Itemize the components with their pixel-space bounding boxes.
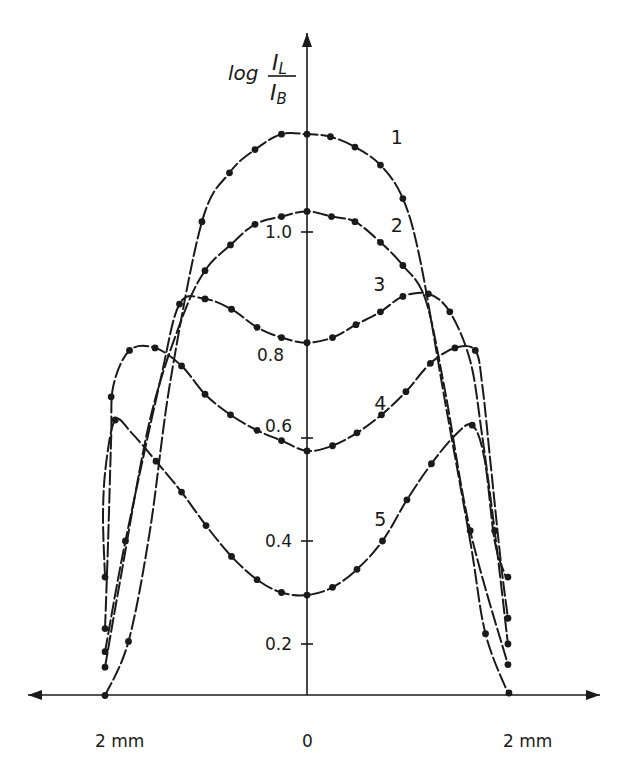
series-label: 3 xyxy=(373,273,385,295)
data-point xyxy=(304,447,311,454)
data-point xyxy=(278,131,285,138)
data-point xyxy=(102,625,109,632)
x-tick-label: 2 mm xyxy=(503,731,552,751)
data-point xyxy=(252,146,259,153)
data-point xyxy=(472,347,479,354)
data-point xyxy=(379,538,386,545)
data-point xyxy=(469,422,476,429)
x-tick-label: 2 mm xyxy=(95,731,144,751)
data-point xyxy=(425,290,432,297)
data-point xyxy=(252,221,259,228)
data-point xyxy=(178,363,185,370)
x-tick-label: 0 xyxy=(302,731,313,751)
data-point xyxy=(254,576,261,583)
y-axis-label: log IL IB xyxy=(228,50,296,108)
data-point xyxy=(403,388,410,395)
data-point xyxy=(377,308,384,315)
data-point xyxy=(152,344,159,351)
data-point xyxy=(228,553,235,560)
data-point xyxy=(102,574,109,581)
data-point xyxy=(254,427,261,434)
data-point xyxy=(102,664,109,671)
data-point xyxy=(202,391,209,398)
data-point xyxy=(399,293,406,300)
y-ticks: 0.20.40.60.81.0 xyxy=(257,222,313,654)
x-axis-right-arrow-icon xyxy=(586,690,600,700)
data-point xyxy=(327,133,334,140)
y-label-prefix: log xyxy=(228,61,259,85)
series-label: 4 xyxy=(374,392,386,414)
data-point xyxy=(254,324,261,331)
data-point xyxy=(377,239,384,246)
data-point xyxy=(304,208,311,215)
data-point xyxy=(428,460,435,467)
data-point xyxy=(354,429,361,436)
y-tick-label: 0.2 xyxy=(265,634,292,654)
data-point xyxy=(126,347,133,354)
data-point xyxy=(505,661,512,668)
data-point xyxy=(399,195,406,202)
data-point xyxy=(278,213,285,220)
data-point xyxy=(226,169,233,176)
data-point xyxy=(467,527,474,534)
x-axis xyxy=(28,690,600,700)
data-point xyxy=(505,641,512,648)
y-tick-label: 0.4 xyxy=(265,531,292,551)
data-point xyxy=(278,589,285,596)
data-point xyxy=(112,417,119,424)
data-point xyxy=(203,522,210,529)
data-point xyxy=(329,442,336,449)
data-point xyxy=(505,615,512,622)
data-point xyxy=(202,296,209,303)
data-point xyxy=(352,218,359,225)
data-point xyxy=(153,458,160,465)
y-label-denominator: IB xyxy=(270,80,287,108)
data-point xyxy=(427,360,434,367)
data-point xyxy=(199,218,206,225)
y-tick-label: 1.0 xyxy=(265,222,292,242)
x-tick-labels: 2 mm02 mm xyxy=(95,731,552,751)
data-point xyxy=(377,162,384,169)
data-point xyxy=(452,344,459,351)
series-label: 1 xyxy=(391,126,403,148)
data-point xyxy=(353,321,360,328)
data-point xyxy=(202,267,209,274)
series-label: 5 xyxy=(374,508,386,530)
data-point xyxy=(278,334,285,341)
data-point xyxy=(352,144,359,151)
data-point xyxy=(278,437,285,444)
data-point xyxy=(354,566,361,573)
series-label: 2 xyxy=(391,214,403,236)
data-point xyxy=(102,692,109,699)
y-axis-arrow-icon xyxy=(302,33,312,47)
data-point xyxy=(108,393,115,400)
data-point xyxy=(228,306,235,313)
y-tick-label: 0.8 xyxy=(257,345,284,365)
y-label-numerator: IL xyxy=(272,50,287,78)
chart: 0.20.40.60.81.0 2 mm02 mm log IL IB 1234… xyxy=(0,0,626,771)
data-point xyxy=(227,241,234,248)
data-point xyxy=(178,489,185,496)
data-point xyxy=(227,411,234,418)
data-point xyxy=(304,131,311,138)
x-axis-left-arrow-icon xyxy=(28,690,42,700)
data-point xyxy=(125,638,132,645)
data-point xyxy=(446,308,453,315)
data-point xyxy=(328,213,335,220)
data-point xyxy=(304,592,311,599)
series-line xyxy=(103,419,506,596)
data-point xyxy=(304,339,311,346)
data-point xyxy=(506,690,513,697)
data-point xyxy=(176,301,183,308)
data-point xyxy=(505,574,512,581)
data-point xyxy=(329,584,336,591)
y-tick-label: 0.6 xyxy=(265,416,292,436)
data-point xyxy=(329,334,336,341)
data-point xyxy=(102,648,109,655)
data-point xyxy=(482,630,489,637)
data-point xyxy=(399,262,406,269)
data-point xyxy=(404,496,411,503)
data-point xyxy=(122,538,129,545)
